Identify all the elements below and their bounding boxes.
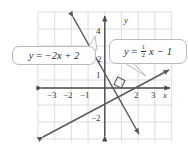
xtick-neg3: −3 bbox=[47, 90, 57, 100]
xtick-2: 2 bbox=[134, 90, 139, 100]
coordinate-plane-svg bbox=[0, 0, 188, 150]
equation-label-line2: y = 1 2 x − 1 bbox=[109, 39, 187, 64]
ytick-1: 1 bbox=[96, 70, 101, 80]
equation1-y: y bbox=[29, 50, 34, 61]
equation2-fraction: 1 2 bbox=[141, 44, 146, 58]
equation2-numerator: 1 bbox=[141, 44, 146, 51]
xtick-3: 3 bbox=[151, 90, 156, 100]
equation2-minus: − bbox=[157, 46, 164, 57]
y-axis-label: y bbox=[124, 15, 128, 25]
ytick-4: 4 bbox=[96, 26, 101, 36]
equation1-equals: = bbox=[35, 50, 42, 61]
equation2-denominator: 2 bbox=[141, 51, 146, 59]
xtick-neg2: −2 bbox=[63, 90, 73, 100]
x-axis-label: x bbox=[163, 90, 167, 100]
xtick-neg1: −1 bbox=[80, 90, 90, 100]
equation-label-line1: y = −2x + 2 bbox=[12, 46, 96, 65]
ytick-neg2: −2 bbox=[91, 113, 101, 123]
equation2-variable: x bbox=[149, 46, 154, 57]
graph-figure: y = −2x + 2 y = 1 2 x − 1 y x −3 −2 −1 2… bbox=[0, 0, 188, 150]
ytick-2: 2 bbox=[97, 54, 102, 64]
equation2-constant: 1 bbox=[167, 46, 172, 57]
right-angle-marker bbox=[114, 77, 125, 88]
equation2-equals: = bbox=[131, 46, 138, 57]
equation2-y: y bbox=[124, 46, 129, 57]
callout-right-tail bbox=[123, 62, 146, 76]
equation1-expression: −2x + 2 bbox=[45, 50, 80, 61]
